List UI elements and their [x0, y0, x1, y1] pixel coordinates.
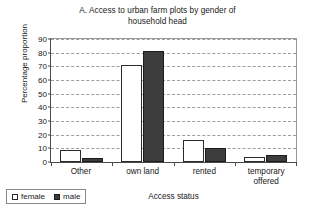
bar-male-rented[interactable]: [205, 148, 226, 162]
x-label-temporary-offered: temporary offered: [235, 167, 297, 187]
chart-title-line-2: household head: [30, 16, 285, 27]
legend-item-female[interactable]: female: [12, 192, 45, 201]
y-tick-label-10: 10: [38, 144, 47, 153]
x-axis-title: Access status: [50, 192, 297, 201]
black-square-icon: [54, 194, 60, 200]
x-tick-mark-4: [296, 162, 297, 166]
y-tick-label-50: 50: [38, 89, 47, 98]
y-tick-label-60: 60: [38, 75, 47, 84]
x-label-other-line-1: Other: [71, 167, 91, 176]
chart-legend: female male: [6, 189, 86, 204]
y-tick-label-30: 30: [38, 117, 47, 126]
legend-label-male: male: [63, 192, 80, 201]
plot-area: 90 80 70 60 50 40 30 20 10 0: [50, 38, 297, 163]
bar-group-rented: [174, 39, 235, 162]
legend-item-male[interactable]: male: [54, 192, 80, 201]
x-tick-mark-2: [174, 162, 175, 166]
bar-male-other[interactable]: [82, 158, 103, 162]
y-tick-label-70: 70: [38, 62, 47, 71]
bar-chart-figure: A. Access to urban farm plots by gender …: [0, 0, 314, 213]
bar-female-rented[interactable]: [183, 140, 204, 162]
bar-male-own-land[interactable]: [143, 51, 164, 162]
chart-title: A. Access to urban farm plots by gender …: [30, 5, 285, 27]
x-tick-mark-0: [51, 162, 52, 166]
x-tick-mark-3: [235, 162, 236, 166]
bar-group-own-land: [112, 39, 173, 162]
x-label-own-land-line-1: own land: [126, 167, 159, 176]
x-label-rented: rented: [174, 167, 236, 187]
x-label-rented-line-1: rented: [193, 167, 216, 176]
y-tick-label-90: 90: [38, 35, 47, 44]
bar-group-temporary-offered: [235, 39, 296, 162]
x-axis-tick-labels: Other own land rented temporary offered: [50, 167, 297, 187]
x-label-other: Other: [50, 167, 112, 187]
bars-layer: [51, 39, 296, 162]
x-label-temporary-offered-line-2: offered: [235, 177, 297, 187]
bar-group-other: [51, 39, 112, 162]
bar-female-own-land[interactable]: [121, 65, 142, 162]
legend-label-female: female: [21, 192, 45, 201]
y-tick-label-0: 0: [43, 158, 47, 167]
y-axis-title: Percentage proportion: [20, 4, 29, 124]
y-tick-label-20: 20: [38, 130, 47, 139]
x-tick-mark-1: [112, 162, 113, 166]
bar-female-other[interactable]: [60, 150, 81, 162]
white-square-icon: [12, 194, 18, 200]
x-label-temporary-offered-line-1: temporary: [248, 167, 285, 176]
y-tick-label-80: 80: [38, 48, 47, 57]
x-label-own-land: own land: [112, 167, 174, 187]
bar-female-temporary-offered[interactable]: [244, 157, 265, 162]
y-tick-label-40: 40: [38, 103, 47, 112]
bar-male-temporary-offered[interactable]: [266, 155, 287, 162]
chart-title-line-1: A. Access to urban farm plots by gender …: [79, 6, 235, 15]
